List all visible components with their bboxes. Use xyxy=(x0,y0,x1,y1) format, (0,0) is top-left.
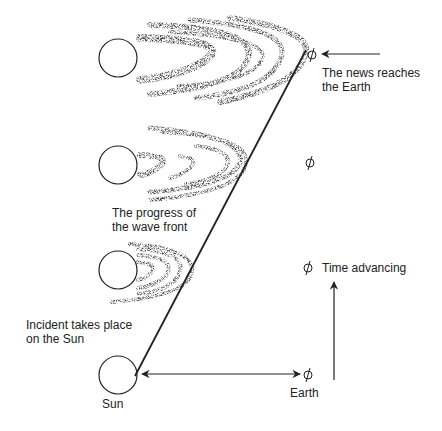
wavefronts-t3 xyxy=(140,18,306,102)
sun-t3-icon xyxy=(99,39,137,77)
solar-news-diagram: The news reaches the Earth The progress … xyxy=(0,0,442,431)
diagram-canvas xyxy=(0,0,442,431)
incident-label: Incident takes place on the Sun xyxy=(26,318,132,346)
time-advancing-label: Time advancing xyxy=(322,261,406,275)
earth-t2-icon xyxy=(306,156,314,170)
sun-t2-icon xyxy=(99,146,137,184)
sun-t1-icon xyxy=(99,251,137,289)
news-reaches-label: The news reaches the Earth xyxy=(322,66,420,94)
sun-label: Sun xyxy=(102,397,123,411)
wave-front-label: The progress of the wave front xyxy=(112,206,196,234)
earth-t0-icon xyxy=(304,368,312,382)
wavefronts-t2 xyxy=(140,128,246,200)
sun-t0-icon xyxy=(99,356,137,394)
earth-label: Earth xyxy=(290,386,319,400)
earth-t3-icon xyxy=(308,48,316,62)
earth-t1-icon xyxy=(304,261,312,275)
